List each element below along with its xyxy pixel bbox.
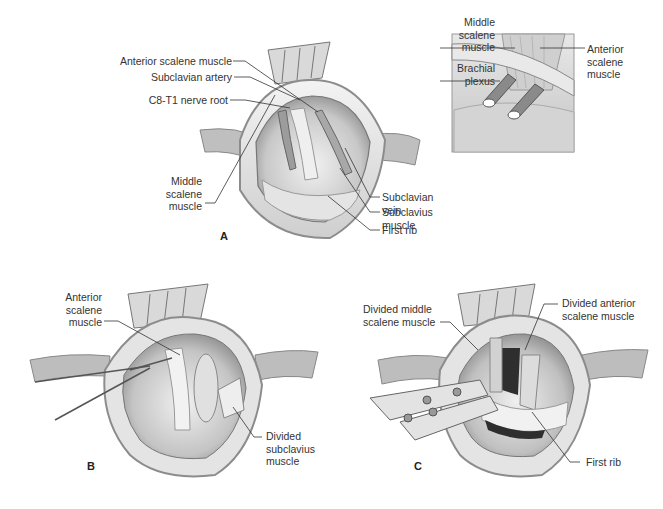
- inset-label-brachial-plexus: Brachial plexus: [457, 62, 495, 87]
- panel-a: Anterior scalene muscle Subclavian arter…: [0, 0, 440, 270]
- label-anterior-scalene-muscle-b: Anterior scalene muscle: [65, 291, 102, 329]
- label-subclavian-artery: Subclavian artery: [151, 71, 232, 84]
- label-first-rib-c: First rib: [586, 456, 621, 469]
- label-divided-subclavius-muscle-b: Divided subclavius muscle: [266, 430, 315, 468]
- surgical-field-illustration-b: [0, 270, 330, 509]
- inset-label-anterior-scalene-muscle: Anterior scalene muscle: [587, 43, 624, 81]
- inset-label-middle-scalene-muscle: Middle scalene muscle: [459, 16, 495, 54]
- label-divided-anterior-scalene-muscle: Divided anterior scalene muscle: [562, 297, 636, 322]
- panel-letter-b: B: [87, 460, 95, 472]
- panel-letter-a: A: [220, 230, 228, 242]
- panel-inset: Middle scalene muscle Brachial plexus An…: [440, 0, 663, 160]
- label-anterior-scalene-muscle: Anterior scalene muscle: [120, 55, 232, 68]
- panel-c: Divided middle scalene muscle Divided an…: [330, 270, 663, 509]
- panel-b: Anterior scalene muscle Divided subclavi…: [0, 270, 330, 509]
- label-c8-t1-nerve-root: C8-T1 nerve root: [149, 94, 228, 107]
- label-divided-middle-scalene-muscle: Divided middle scalene muscle: [363, 303, 435, 328]
- label-middle-scalene-muscle: Middle scalene muscle: [166, 175, 202, 213]
- panel-letter-c: C: [414, 460, 422, 472]
- label-first-rib: First rib: [382, 224, 417, 237]
